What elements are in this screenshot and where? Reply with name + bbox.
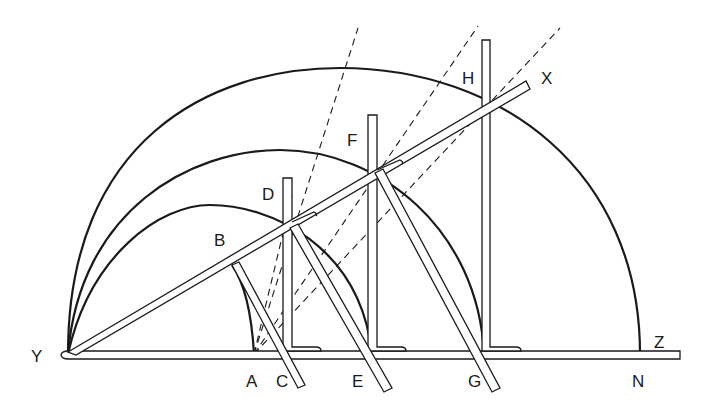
label-B: B [214, 231, 225, 250]
label-C: C [276, 372, 288, 391]
point-labels: Y A C E G N Z B D F H X [31, 69, 664, 391]
label-E: E [352, 372, 363, 391]
geometric-diagram: Y A C E G N Z B D F H X [0, 0, 707, 407]
arcs [68, 68, 640, 354]
outer-arc-YN [68, 68, 640, 354]
label-D: D [262, 185, 274, 204]
label-X: X [541, 69, 552, 88]
label-G: G [468, 372, 481, 391]
label-Y: Y [31, 347, 42, 366]
label-Z: Z [654, 333, 664, 352]
label-F: F [347, 131, 357, 150]
label-H: H [462, 69, 474, 88]
vertical-rulers [283, 40, 521, 351]
label-A: A [246, 372, 258, 391]
label-N: N [632, 372, 644, 391]
